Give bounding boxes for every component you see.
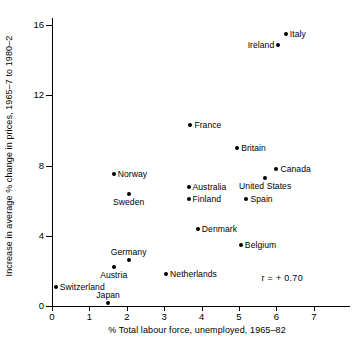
data-point-marker	[196, 227, 200, 231]
data-point-marker	[112, 265, 116, 269]
data-point-label: Sweden	[113, 197, 144, 207]
plot-area: 0481216 01234567 ItalyIrelandFranceBrita…	[0, 0, 360, 348]
scatter-plot-figure: Increase in average % change in prices, …	[0, 0, 360, 348]
data-point-marker	[54, 285, 58, 289]
data-point-marker	[106, 301, 110, 305]
data-point-marker	[164, 272, 168, 276]
x-axis-title: % Total labour force, unemployed, 1965–8…	[52, 325, 342, 335]
data-point-marker	[276, 43, 280, 47]
data-point-label: Norway	[118, 169, 147, 179]
data-point-label: Netherlands	[170, 269, 217, 279]
y-tick-label: 12	[18, 90, 44, 100]
x-tick-label: 4	[192, 312, 212, 322]
data-point-marker	[239, 243, 243, 247]
y-tick-label: 0	[18, 301, 44, 311]
data-point-label: Britain	[241, 143, 266, 153]
y-tick-mark	[46, 236, 52, 237]
data-point-label: United States	[239, 181, 291, 191]
y-tick-label: 8	[18, 161, 44, 171]
data-point-marker	[263, 176, 267, 180]
correlation-annotation: r = + 0.70	[261, 273, 303, 283]
data-point-marker	[274, 167, 278, 171]
x-tick-label: 1	[79, 312, 99, 322]
data-point-marker	[187, 185, 191, 189]
data-point-marker	[127, 258, 131, 262]
data-point-label: Germany	[111, 247, 147, 257]
data-point-label: Finland	[193, 194, 222, 204]
data-point-label: France	[194, 120, 221, 130]
data-point-label: Denmark	[202, 224, 237, 234]
y-tick-label: 16	[18, 20, 44, 30]
x-tick-label: 3	[154, 312, 174, 322]
data-point-label: Spain	[250, 194, 272, 204]
data-point-marker	[244, 197, 248, 201]
y-axis-line	[52, 18, 53, 307]
data-point-marker	[188, 123, 192, 127]
y-tick-mark	[46, 95, 52, 96]
x-tick-label: 0	[42, 312, 62, 322]
data-point-label: Austria	[100, 270, 127, 280]
data-point-label: Belgium	[245, 240, 276, 250]
data-point-label: Italy	[290, 29, 306, 39]
y-tick-mark	[46, 166, 52, 167]
x-tick-label: 7	[304, 312, 324, 322]
data-point-marker	[112, 172, 116, 176]
data-point-marker	[284, 32, 288, 36]
data-point-label: Ireland	[248, 40, 275, 50]
data-point-marker	[235, 146, 239, 150]
data-point-label: Australia	[193, 182, 227, 192]
data-point-label: Japan	[96, 290, 120, 300]
x-tick-label: 2	[117, 312, 137, 322]
x-tick-label: 6	[266, 312, 286, 322]
data-point-marker	[187, 197, 191, 201]
data-point-label: Canada	[280, 164, 310, 174]
y-tick-mark	[46, 25, 52, 26]
y-tick-label: 4	[18, 231, 44, 241]
x-tick-label: 5	[229, 312, 249, 322]
data-point-marker	[127, 192, 131, 196]
